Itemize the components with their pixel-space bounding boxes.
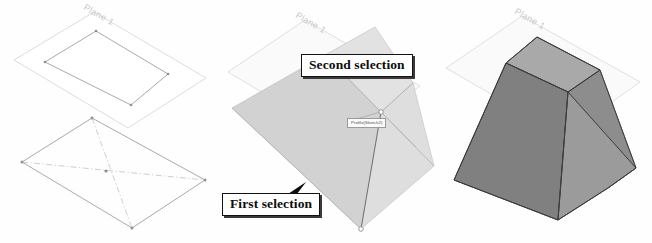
panel-1-canvas: Plane 1 <box>0 0 220 243</box>
sketch-profile-lower <box>22 118 205 228</box>
sketch-center-point <box>104 169 107 172</box>
panel-completed-solid: Plane 1 <box>440 0 652 243</box>
panel-3-canvas: Plane 1 <box>440 0 652 243</box>
panel-sketch-profiles: Plane 1 <box>0 0 220 243</box>
sketch-vertex <box>130 104 133 107</box>
profile-tooltip: Profile(Sketch2) <box>347 118 386 128</box>
sketch-vertex <box>167 73 170 76</box>
second-selection-callout: Second selection <box>301 54 413 77</box>
edge-endpoint-handle[interactable] <box>359 227 364 232</box>
sketch-vertex <box>131 227 134 230</box>
reference-plane-upper <box>14 12 206 128</box>
first-selection-callout: First selection <box>222 193 320 216</box>
sketch-vertex <box>44 61 47 64</box>
sketch-vertex <box>95 30 98 33</box>
construction-diagonal <box>92 118 132 228</box>
loft-figure: Plane 1 Plane 1 <box>0 0 652 243</box>
